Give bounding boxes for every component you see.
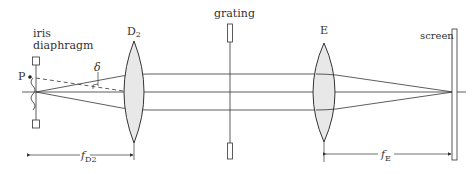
- grating: [228, 24, 233, 159]
- point-p-dot: [28, 75, 32, 79]
- lens-e: [313, 43, 335, 142]
- grating-label: grating: [214, 7, 255, 20]
- screen-label: screen: [420, 30, 454, 41]
- lens-d2-label: D2: [127, 25, 141, 39]
- lens-e-label: E: [320, 24, 328, 37]
- point-p-label: P: [18, 70, 26, 83]
- angle-delta-label: δ: [94, 61, 101, 74]
- iris-label-line2: diaphragm: [33, 39, 94, 52]
- optical-diagram: iris diaphragm P δ D2 grating E screen f…: [0, 0, 476, 174]
- dashed-ray-from-p: [36, 78, 130, 92]
- screen: [452, 29, 457, 160]
- focal-e-label: fE: [380, 148, 391, 163]
- lens-d2: [124, 41, 144, 143]
- focal-d2-label: fD2: [80, 149, 97, 164]
